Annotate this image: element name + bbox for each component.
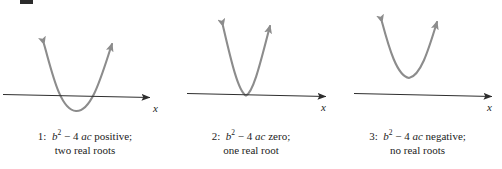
parabola-curve-3 (382, 22, 437, 78)
caption-2: 2: b2 − 4 ac zero; one real root (166, 126, 336, 157)
caption-1: 1: b2 − 4 ac positive; two real roots (0, 126, 170, 157)
panel-discriminant-negative: x 3: b2 − 4 ac negative; no real roots (333, 0, 502, 169)
panel-number-3: 3: (369, 130, 378, 142)
discriminant-parabolas-figure: x 1: b2 − 4 ac positive; two real roots (0, 0, 502, 169)
exponent-2-3: 2 (389, 128, 393, 137)
exponent-2-1: 2 (57, 128, 61, 137)
caption-3: 3: b2 − 4 ac negative; no real roots (333, 126, 502, 157)
x-axis-label-1: x (152, 102, 158, 114)
product-ac-1: ac (81, 130, 91, 142)
coefficient-4-2: 4 (247, 130, 253, 142)
x-axis-label-3: x (486, 101, 492, 113)
x-axis-line-1 (3, 95, 150, 98)
discriminant-word-2: zero; (268, 130, 290, 142)
coefficient-4-3: 4 (404, 130, 410, 142)
discriminant-word-3: negative; (426, 130, 466, 142)
caption-line1-2: 2: b2 − 4 ac zero; (166, 126, 336, 143)
plot-area-3: x (333, 0, 502, 120)
plot-area-2: x (166, 0, 336, 120)
caption-line2-1: two real roots (0, 143, 170, 157)
x-axis-label-2: x (320, 101, 326, 113)
x-axis-line-2 (187, 94, 326, 97)
minus-operator-2: − (238, 130, 244, 142)
x-axis-line-3 (354, 94, 492, 97)
panel-discriminant-zero: x 2: b2 − 4 ac zero; one real root (166, 0, 336, 169)
parabola-curve-1 (44, 44, 112, 111)
caption-line1-3: 3: b2 − 4 ac negative; (333, 126, 502, 143)
discriminant-word-1: positive; (94, 130, 132, 142)
product-ac-2: ac (255, 130, 265, 142)
exponent-2-2: 2 (231, 128, 235, 137)
plot-area-1: x (0, 0, 170, 120)
panel-number-2: 2: (212, 130, 221, 142)
parabola-curve-2 (223, 26, 270, 96)
panel-discriminant-positive: x 1: b2 − 4 ac positive; two real roots (0, 0, 170, 169)
coefficient-4-1: 4 (73, 130, 79, 142)
caption-line2-3: no real roots (333, 143, 502, 157)
caption-line1-1: 1: b2 − 4 ac positive; (0, 126, 170, 143)
product-ac-3: ac (412, 130, 422, 142)
caption-line2-2: one real root (166, 143, 336, 157)
minus-operator-3: − (395, 130, 401, 142)
minus-operator-1: − (64, 130, 70, 142)
panel-number-1: 1: (38, 130, 47, 142)
